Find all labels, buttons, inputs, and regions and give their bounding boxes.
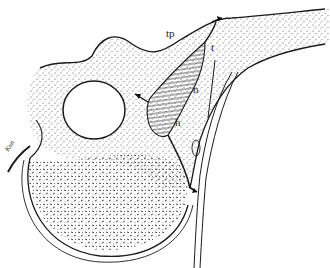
label-n: n	[193, 84, 199, 95]
spinal-canal	[63, 81, 125, 139]
label-t: t	[211, 42, 214, 53]
label-h: h	[175, 117, 181, 128]
label-tp: tp	[166, 28, 175, 39]
vertebra-diagram: tp t n h Kun	[0, 0, 330, 268]
vertebral-body	[28, 155, 187, 250]
vertebra-drawing	[0, 0, 330, 268]
